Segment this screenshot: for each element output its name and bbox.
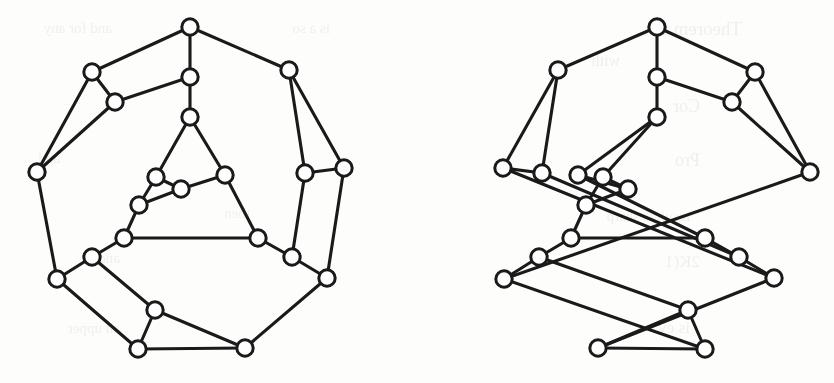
graph-edge [225,175,258,238]
graph-vertex [182,69,198,85]
graph-vertex [319,270,335,286]
graph-vertex [148,169,164,185]
graph-vertex [297,165,313,181]
graph-vertex [284,249,300,265]
graph-vertex [570,167,586,183]
graph-edge [37,102,115,172]
graph-edge [657,77,732,102]
graph-edge [190,27,289,70]
graph-vertex [496,271,512,287]
graph-vertex [802,164,818,180]
graph-edge [245,278,327,348]
graph-vertex [49,271,65,287]
graph-vertex [724,94,740,110]
graph-vertex [116,230,132,246]
graph-vertex [495,160,511,176]
graph-edge [37,172,57,279]
graph-vertex [620,181,636,197]
graph-vertex [131,197,147,213]
graph-vertex [680,302,696,318]
graph-vertex [84,64,100,80]
graph-edge [598,348,705,349]
graph-edge [155,310,245,348]
graph-vertex [250,230,266,246]
graph-vertex [590,340,606,356]
graph-vertex [534,165,550,181]
graph-vertex [595,169,611,185]
graph-edge [138,348,245,349]
graph-edge [37,72,92,172]
graph-vertex [336,160,352,176]
graph-vertex [29,164,45,180]
right-graph-group [495,19,818,357]
graph-vertex [731,249,747,265]
graph-edge [327,168,344,278]
graph-edge [115,77,190,102]
graph-edge [657,27,755,72]
graph-edge [156,117,190,177]
graph-vertex [84,249,100,265]
graph-vertex [766,270,782,286]
graph-vertex [649,109,665,125]
graph-vertex [237,340,253,356]
right-graph-vertices [495,19,818,357]
graph-vertex [550,62,566,78]
graph-edge [603,117,657,177]
graph-vertex [563,230,579,246]
graph-vertex [747,64,763,80]
graph-vertex [173,181,189,197]
graph-vertex [649,19,665,35]
graph-vertex [578,197,594,213]
graph-vertex [130,341,146,357]
graph-edge [92,27,190,72]
graph-vertex [697,230,713,246]
graph-vertex [531,249,547,265]
graph-edge [190,117,225,175]
figure-root: Theorem 15and for anyis a sowithCorandPr… [0,0,834,383]
graph-vertex [697,341,713,357]
graph-vertex [182,19,198,35]
graph-vertex [182,109,198,125]
graph-vertex [217,167,233,183]
graph-edge [539,257,688,310]
graph-vertex [649,69,665,85]
graph-edge [558,27,657,70]
graph-vertex [281,62,297,78]
graph-figure-canvas [0,0,834,383]
graph-edge [578,117,657,175]
graph-edge [755,72,810,172]
graph-vertex [107,94,123,110]
graph-edge [732,102,810,172]
graph-edge [57,279,138,349]
left-graph-group [29,19,352,357]
graph-vertex [147,302,163,318]
graph-edge [292,173,305,257]
graph-edge [92,257,155,310]
